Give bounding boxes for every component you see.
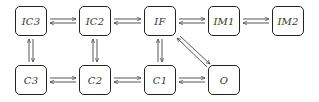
node-label: O [220,75,228,86]
node-label: IM1 [213,16,234,27]
edge-im1-im2 [243,19,269,23]
edge-ic2-c2 [93,39,97,62]
node-label: IC3 [22,16,41,27]
node-label: IF [154,16,165,27]
node-c2: C2 [79,65,111,95]
edge-if-c1 [158,39,162,62]
state-diagram: IC3 IC2 IF IM1 IM2 C3 C2 C1 O [0,0,319,102]
edge-c1-o [179,78,205,82]
node-c1: C1 [144,65,176,95]
edge-c3-c2 [50,78,76,82]
node-o: O [208,65,240,95]
node-ic3: IC3 [15,6,47,36]
node-label: C3 [24,75,38,86]
node-label: IC2 [86,16,105,27]
edge-if-im1 [179,19,205,23]
edge-ic2-if [114,19,141,23]
node-if: IF [144,6,176,36]
edge-c2-c1 [114,78,141,82]
node-im2: IM2 [272,6,304,36]
node-ic2: IC2 [79,6,111,36]
node-label: C1 [153,75,167,86]
node-label: IM2 [277,16,298,27]
node-c3: C3 [15,65,47,95]
edge-ic3-ic2 [50,19,76,23]
edge-ic3-c3 [29,39,33,62]
node-im1: IM1 [208,6,240,36]
node-label: C2 [88,75,102,86]
edge-if-o [177,36,210,67]
